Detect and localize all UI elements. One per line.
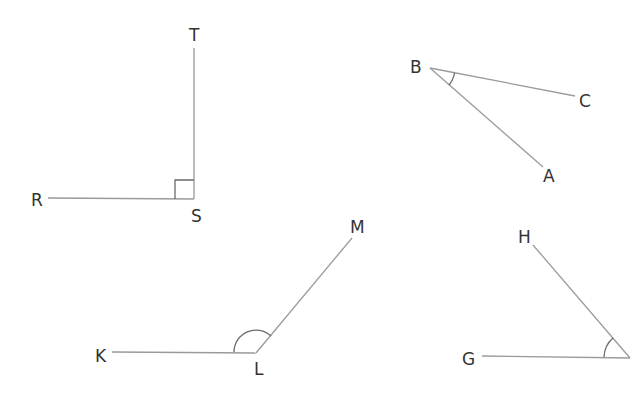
label-k: K — [95, 346, 107, 366]
angle-abc: B C A — [410, 57, 591, 186]
label-a: A — [543, 166, 555, 186]
label-l: L — [254, 359, 264, 379]
label-g: G — [462, 349, 475, 369]
angle-arc-icon — [604, 338, 613, 357]
ray-g — [482, 356, 630, 358]
ray-sr — [48, 198, 194, 199]
label-h: H — [518, 227, 531, 247]
angles-diagram: R T S B C A K L M G H — [0, 0, 633, 395]
ray-ba — [430, 68, 543, 167]
angle-klm: K L M — [95, 217, 365, 379]
label-b: B — [410, 57, 422, 77]
label-t: T — [188, 25, 200, 45]
label-m: M — [350, 217, 365, 237]
label-r: R — [31, 190, 43, 210]
label-c: C — [579, 91, 591, 111]
ray-h — [533, 245, 630, 358]
ray-lk — [112, 352, 256, 353]
angle-gh: G H — [462, 227, 630, 369]
angle-arc-icon — [449, 73, 455, 85]
right-angle-marker-icon — [175, 180, 194, 199]
label-s: S — [191, 206, 202, 226]
angle-rst: R T S — [31, 25, 202, 226]
